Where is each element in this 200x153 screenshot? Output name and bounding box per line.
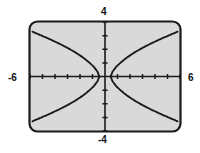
axis-label-x-min: -6 <box>8 73 17 83</box>
calculator-screen-viewport: 4 -4 -6 6 <box>0 0 200 153</box>
axis-label-x-max: 6 <box>188 73 193 83</box>
axis-label-y-max: 4 <box>101 7 106 17</box>
plot-area <box>28 20 182 133</box>
axis-label-y-min: -4 <box>98 135 107 145</box>
hyperbola-plot <box>28 20 182 133</box>
